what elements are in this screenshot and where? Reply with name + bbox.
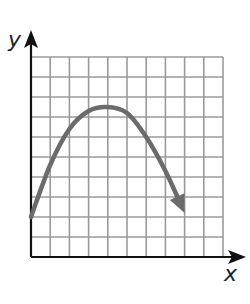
y-axis-label: y <box>7 27 22 52</box>
x-axis-label: x <box>223 261 238 286</box>
graph: y x <box>0 0 250 304</box>
curve-line <box>31 107 181 217</box>
grid-lines <box>31 57 223 257</box>
